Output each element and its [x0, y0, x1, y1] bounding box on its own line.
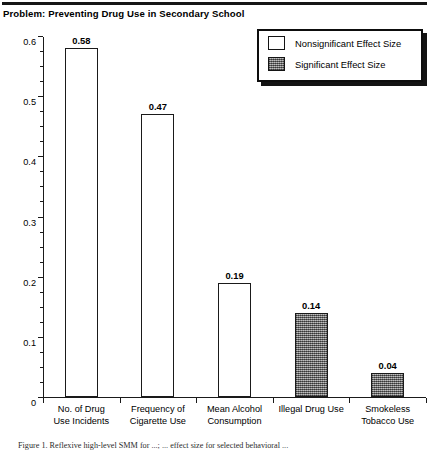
- y-axis-minor-tick: [40, 126, 43, 127]
- y-axis-minor-tick: [40, 186, 43, 187]
- y-axis-tick: [38, 96, 43, 97]
- y-axis-minor-tick: [40, 201, 43, 202]
- bar-4: 0.14: [295, 313, 328, 397]
- x-axis-category-label-2: Frequency of Cigarette Use: [120, 404, 197, 427]
- y-axis-minor-tick: [40, 141, 43, 142]
- y-axis-minor-tick: [40, 352, 43, 353]
- bar-value-label: 0.19: [225, 270, 243, 281]
- bar-value-label: 0.47: [149, 101, 167, 112]
- y-axis-minor-tick: [40, 66, 43, 67]
- x-axis-tick: [43, 398, 44, 403]
- y-axis-tick: [38, 337, 43, 338]
- x-axis-category-label-5: Smokeless Tobacco Use: [349, 404, 426, 427]
- x-axis-tick: [196, 398, 197, 403]
- x-axis-category-label-1: No. of Drug Use Incidents: [43, 404, 120, 427]
- y-axis-tick: [38, 217, 43, 218]
- legend: Nonsignificant Effect Size Significant E…: [257, 29, 423, 82]
- bar-3: 0.19: [218, 283, 251, 397]
- top-rule-divider: [2, 2, 427, 5]
- x-axis-tick: [273, 398, 274, 403]
- y-axis-minor-tick: [40, 171, 43, 172]
- bar-5: 0.04: [371, 373, 404, 397]
- legend-item-significant: Significant Effect Size: [268, 57, 386, 71]
- y-axis-minor-tick: [40, 322, 43, 323]
- y-axis-minor-tick: [40, 307, 43, 308]
- bar-2: 0.47: [141, 114, 174, 397]
- x-axis-tick: [426, 398, 427, 403]
- legend-swatch-nonsignificant-icon: [268, 36, 285, 50]
- y-axis-minor-tick: [40, 247, 43, 248]
- y-axis-tick: [38, 156, 43, 157]
- y-axis-minor-tick: [40, 111, 43, 112]
- page-title: Problem: Preventing Drug Use in Secondar…: [3, 8, 245, 19]
- y-axis-tick: [38, 36, 43, 37]
- y-axis-tick: [38, 277, 43, 278]
- y-axis-minor-tick: [40, 262, 43, 263]
- x-axis-category-label-4: Illegal Drug Use: [273, 404, 350, 416]
- legend-item-nonsignificant: Nonsignificant Effect Size: [268, 36, 401, 50]
- x-axis-tick: [120, 398, 121, 403]
- x-axis-tick: [349, 398, 350, 403]
- legend-label-nonsignificant: Nonsignificant Effect Size: [295, 38, 401, 49]
- bar-chart-plot-area: 00.10.20.30.40.50.60.580.470.190.140.04: [43, 37, 426, 398]
- y-axis-minor-tick: [40, 292, 43, 293]
- figure-caption: Figure 1. Reflexive high-level SMM for .…: [18, 441, 418, 450]
- bar-value-label: 0.14: [302, 300, 320, 311]
- y-axis-line: [43, 37, 44, 398]
- legend-swatch-significant-icon: [268, 57, 285, 71]
- bar-value-label: 0.58: [72, 35, 90, 46]
- bar-1: 0.58: [65, 48, 98, 397]
- y-axis-minor-tick: [40, 232, 43, 233]
- y-axis-minor-tick: [40, 81, 43, 82]
- y-axis-minor-tick: [40, 51, 43, 52]
- x-axis-category-label-3: Mean Alcohol Consumption: [196, 404, 273, 427]
- y-axis-minor-tick: [40, 367, 43, 368]
- legend-label-significant: Significant Effect Size: [295, 59, 386, 70]
- bar-value-label: 0.04: [379, 360, 397, 371]
- x-axis-line: [43, 397, 426, 398]
- y-axis-minor-tick: [40, 382, 43, 383]
